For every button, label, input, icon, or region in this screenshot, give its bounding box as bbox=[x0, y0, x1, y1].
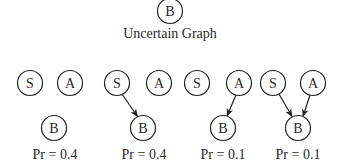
node-a: A bbox=[301, 71, 326, 96]
node-s: S bbox=[105, 71, 130, 96]
node-label: A bbox=[65, 76, 76, 91]
possible-world-2: S A B Pr = 0.4 bbox=[105, 71, 172, 162]
uncertain-graph-diagram: B Uncertain Graph S A B Pr = 0.4 S A bbox=[0, 0, 341, 161]
node-b: B bbox=[211, 116, 236, 141]
possible-world-4: S A B Pr = 0.1 bbox=[261, 71, 326, 162]
edge-s-to-b bbox=[279, 94, 292, 117]
node-b: B bbox=[131, 116, 156, 141]
node-s: S bbox=[18, 71, 43, 96]
node-label: B bbox=[218, 121, 227, 136]
possible-world-3: S A B Pr = 0.1 bbox=[185, 71, 252, 162]
node-label: S bbox=[113, 76, 121, 91]
possible-world-1: S A B Pr = 0.4 bbox=[18, 71, 83, 162]
edge-a-to-b bbox=[303, 95, 310, 117]
probability-label: Pr = 0.1 bbox=[201, 147, 246, 161]
probability-label: Pr = 0.4 bbox=[122, 147, 167, 161]
node-label: S bbox=[193, 76, 201, 91]
node-label: B bbox=[138, 121, 147, 136]
node-label: A bbox=[154, 76, 165, 91]
node-a: A bbox=[227, 71, 252, 96]
node-label: A bbox=[308, 76, 319, 91]
probability-label: Pr = 0.4 bbox=[33, 147, 78, 161]
node-label: B bbox=[293, 121, 302, 136]
edge-s-to-b bbox=[122, 94, 138, 117]
node-label: B bbox=[165, 4, 174, 19]
node-label: A bbox=[234, 76, 245, 91]
node-s: S bbox=[185, 71, 210, 96]
node-s: S bbox=[261, 71, 286, 96]
node-a: A bbox=[147, 71, 172, 96]
probability-label: Pr = 0.1 bbox=[276, 147, 321, 161]
node-a: A bbox=[58, 71, 83, 96]
node-b: B bbox=[158, 0, 183, 24]
node-label: S bbox=[269, 76, 277, 91]
node-label: S bbox=[26, 76, 34, 91]
node-b: B bbox=[286, 116, 311, 141]
edge-a-to-b bbox=[227, 95, 236, 116]
uncertain-graph: B Uncertain Graph bbox=[123, 0, 217, 41]
diagram-title: Uncertain Graph bbox=[123, 26, 217, 41]
node-label: B bbox=[49, 121, 58, 136]
node-b: B bbox=[42, 116, 67, 141]
